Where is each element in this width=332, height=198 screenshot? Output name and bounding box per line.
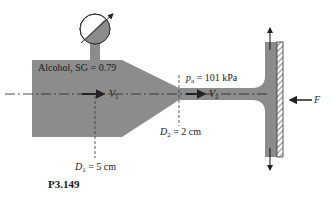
- force-label: F: [314, 95, 320, 105]
- pressure-gauge-icon: [80, 14, 113, 61]
- fluid-body: [32, 42, 277, 157]
- flat-plate: [277, 42, 283, 157]
- d2-label: D2 = 2 cm: [160, 127, 201, 139]
- ambient-pressure-label: pa = 101 kPa: [186, 73, 237, 85]
- fluid-label: Alcohol, SG = 0.79: [38, 63, 116, 73]
- d1-label: D1 = 5 cm: [75, 162, 116, 174]
- nozzle-jet-diagram: Alcohol, SG = 0.79 pa = 101 kPa V1 V2 F …: [0, 0, 332, 198]
- figure-id: P3.149: [48, 178, 79, 190]
- diagram-canvas: [0, 0, 332, 198]
- v2-label: V2: [209, 89, 219, 101]
- v1-label: V1: [109, 89, 119, 101]
